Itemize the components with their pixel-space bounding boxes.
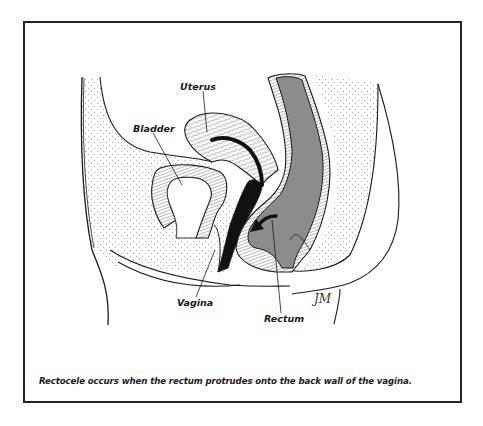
artist-signature: JM [314,293,331,305]
anatomy-illustration [0,0,483,426]
label-uterus: Uterus [180,82,216,92]
label-rectum: Rectum [264,314,304,324]
label-bladder: Bladder [133,124,175,134]
label-vagina: Vagina [177,298,213,308]
figure-caption: Rectocele occurs when the rectum protrud… [39,377,412,386]
